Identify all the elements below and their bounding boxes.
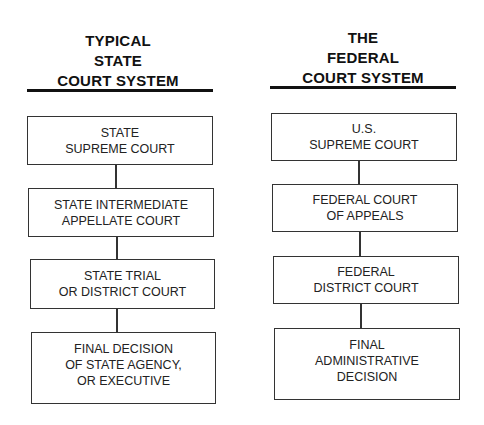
box-line: SUPREME COURT: [309, 137, 419, 153]
box-line: DISTRICT COURT: [313, 280, 418, 296]
box-line: APPELLATE COURT: [62, 213, 180, 229]
state-intermediate-appellate-court-box: STATE INTERMEDIATE APPELLATE COURT: [28, 188, 214, 237]
federal-district-court-box: FEDERAL DISTRICT COURT: [273, 256, 459, 304]
box-line: STATE: [101, 125, 139, 141]
connector-line: [115, 165, 117, 188]
connector-line: [359, 232, 361, 256]
box-line: U.S.: [352, 121, 376, 137]
box-line: OF APPEALS: [326, 208, 403, 224]
connector-line: [116, 309, 118, 332]
box-line: FEDERAL: [337, 264, 395, 280]
box-line: FEDERAL COURT: [313, 192, 418, 208]
box-line: OR EXECUTIVE: [77, 373, 170, 389]
us-supreme-court-box: U.S. SUPREME COURT: [271, 113, 457, 161]
box-line: SUPREME COURT: [65, 141, 175, 157]
title-line: FEDERAL: [265, 48, 461, 68]
state-title-underline: [27, 89, 213, 92]
box-line: FINAL: [349, 337, 384, 353]
box-line: OR DISTRICT COURT: [59, 284, 186, 300]
federal-system-title: THE FEDERAL COURT SYSTEM: [265, 28, 461, 88]
title-line: COURT SYSTEM: [20, 71, 216, 91]
state-agency-decision-box: FINAL DECISION OF STATE AGENCY, OR EXECU…: [31, 332, 216, 404]
state-supreme-court-box: STATE SUPREME COURT: [27, 116, 213, 165]
federal-title-underline: [270, 86, 456, 89]
box-line: STATE TRIAL: [84, 268, 161, 284]
state-system-title: TYPICAL STATE COURT SYSTEM: [20, 31, 216, 91]
box-line: DECISION: [337, 369, 397, 385]
box-line: OF STATE AGENCY,: [65, 357, 182, 373]
connector-line: [358, 161, 360, 184]
connector-line: [360, 304, 362, 328]
title-line: TYPICAL: [20, 31, 216, 51]
box-line: STATE INTERMEDIATE: [54, 197, 188, 213]
box-line: FINAL DECISION: [74, 341, 173, 357]
title-line: THE: [265, 28, 461, 48]
federal-court-of-appeals-box: FEDERAL COURT OF APPEALS: [272, 184, 458, 232]
state-trial-court-box: STATE TRIAL OR DISTRICT COURT: [30, 259, 215, 309]
connector-line: [116, 237, 118, 259]
title-line: COURT SYSTEM: [265, 68, 461, 88]
final-administrative-decision-box: FINAL ADMINISTRATIVE DECISION: [274, 328, 460, 400]
title-line: STATE: [20, 51, 216, 71]
box-line: ADMINISTRATIVE: [315, 353, 419, 369]
